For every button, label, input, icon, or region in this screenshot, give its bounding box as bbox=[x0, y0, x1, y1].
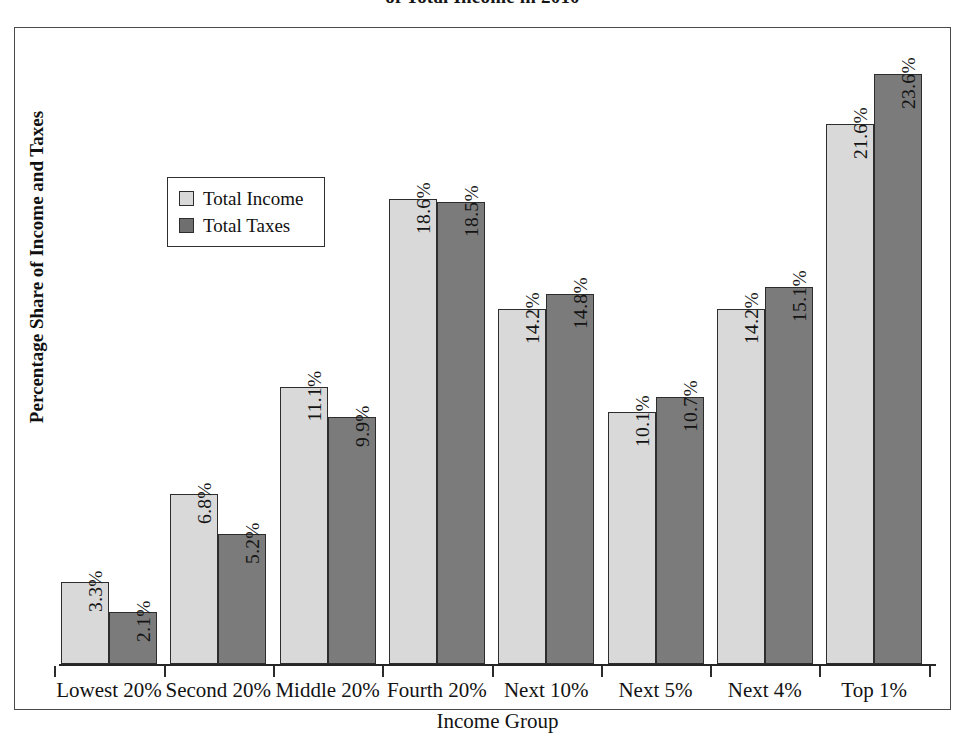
bar-value-label: 10.7% bbox=[680, 380, 702, 432]
bar-group: 10.1%10.7% bbox=[608, 28, 704, 664]
x-axis-tick bbox=[601, 666, 603, 677]
bar-group: 6.8%5.2% bbox=[170, 28, 266, 664]
x-axis-tick bbox=[492, 666, 494, 677]
bar-group: 14.2%15.1% bbox=[717, 28, 813, 664]
bar-value-label: 23.6% bbox=[898, 57, 920, 109]
bar-group: 18.6%18.5% bbox=[389, 28, 485, 664]
bar-taxes: 23.6% bbox=[874, 74, 922, 664]
x-axis-tick bbox=[710, 666, 712, 677]
bar-income: 10.1% bbox=[608, 412, 656, 665]
bar-taxes: 18.5% bbox=[437, 202, 485, 665]
bar-value-label: 2.1% bbox=[133, 600, 155, 642]
bar-value-label: 10.1% bbox=[632, 395, 654, 447]
bar-taxes: 9.9% bbox=[328, 417, 376, 665]
bar-income: 21.6% bbox=[826, 124, 874, 664]
bar-value-label: 14.8% bbox=[570, 277, 592, 329]
bar-taxes: 2.1% bbox=[109, 612, 157, 665]
chart-outer-frame: Percentage Share of Income and Taxes Inc… bbox=[14, 27, 951, 710]
bar-value-label: 21.6% bbox=[850, 107, 872, 159]
bar-income: 6.8% bbox=[170, 494, 218, 664]
x-axis-tick bbox=[54, 666, 56, 677]
bar-income: 14.2% bbox=[498, 309, 546, 664]
bar-group: 14.2%14.8% bbox=[498, 28, 594, 664]
bar-group: 3.3%2.1% bbox=[61, 28, 157, 664]
bar-group: 11.1%9.9% bbox=[280, 28, 376, 664]
x-axis-tick bbox=[929, 666, 931, 677]
y-axis-title: Percentage Share of Income and Taxes bbox=[26, 37, 48, 497]
bar-income: 3.3% bbox=[61, 582, 109, 665]
bar-value-label: 9.9% bbox=[352, 405, 374, 447]
bar-value-label: 5.2% bbox=[242, 522, 264, 564]
chart-title: of Total Income in 2010 bbox=[0, 0, 965, 8]
bar-value-label: 3.3% bbox=[85, 570, 107, 612]
bar-value-label: 18.5% bbox=[461, 185, 483, 237]
bar-taxes: 14.8% bbox=[546, 294, 594, 664]
bar-value-label: 14.2% bbox=[741, 292, 763, 344]
x-axis-line bbox=[59, 664, 936, 666]
x-axis-tick bbox=[273, 666, 275, 677]
x-axis-tick bbox=[819, 666, 821, 677]
bar-income: 14.2% bbox=[717, 309, 765, 664]
x-axis-title: Income Group bbox=[59, 709, 936, 734]
bar-taxes: 5.2% bbox=[218, 534, 266, 664]
bar-income: 11.1% bbox=[280, 387, 328, 665]
bar-taxes: 15.1% bbox=[765, 287, 813, 665]
bar-income: 18.6% bbox=[389, 199, 437, 664]
x-axis-tick bbox=[164, 666, 166, 677]
bar-value-label: 15.1% bbox=[789, 270, 811, 322]
x-axis-category-label: Top 1% bbox=[784, 678, 964, 703]
bar-value-label: 11.1% bbox=[304, 370, 326, 421]
bar-value-label: 18.6% bbox=[413, 182, 435, 234]
x-axis-tick bbox=[382, 666, 384, 677]
bar-value-label: 14.2% bbox=[522, 292, 544, 344]
bar-group: 21.6%23.6% bbox=[826, 28, 922, 664]
bar-taxes: 10.7% bbox=[656, 397, 704, 665]
bar-value-label: 6.8% bbox=[194, 482, 216, 524]
